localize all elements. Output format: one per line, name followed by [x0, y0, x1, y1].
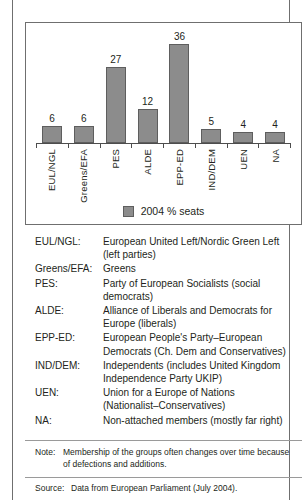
- bar-slot: 36: [164, 31, 196, 143]
- source-block: Source: Data from European Parliament (J…: [25, 483, 300, 495]
- bar-value-label: 5: [209, 116, 215, 127]
- category-label: UEN: [238, 149, 249, 170]
- glossary-term: EUL/NGL:: [35, 235, 103, 248]
- category-cell: EUL/NGL: [36, 149, 68, 209]
- bar: [106, 67, 126, 143]
- bar-slot: 4: [259, 31, 291, 143]
- glossary-definition: Union for a Europe of Nations (Nationali…: [103, 386, 292, 412]
- bar-slot: 4: [227, 31, 259, 143]
- glossary-row: ALDE: Alliance of Liberals and Democrats…: [35, 304, 292, 330]
- category-cell: PES: [100, 149, 132, 209]
- axis-tick: [100, 144, 101, 148]
- x-axis-ticks: [36, 144, 291, 148]
- category-label: Greens/EFA: [78, 149, 89, 203]
- bar-value-label: 6: [81, 113, 87, 124]
- x-axis-category-labels: EUL/NGL Greens/EFA PES ALDE EPP-ED IND/D…: [36, 149, 291, 209]
- glossary-term: EPP-ED:: [35, 331, 103, 344]
- axis-tick: [258, 144, 259, 148]
- bar-slot: 27: [100, 31, 132, 143]
- glossary-term: UEN:: [35, 386, 103, 399]
- glossary-row: NA: Non-attached members (mostly far rig…: [35, 414, 292, 427]
- bar: [138, 109, 158, 143]
- chart-legend: 2004 % seats: [26, 205, 300, 217]
- category-cell: UEN: [227, 149, 259, 209]
- note-block: Note: Membership of the groups often cha…: [25, 447, 300, 470]
- legend-label: 2004 % seats: [141, 205, 205, 217]
- glossary-row: UEN: Union for a Europe of Nations (Nati…: [35, 386, 292, 412]
- glossary-term: NA:: [35, 414, 103, 427]
- source-divider: [25, 477, 300, 478]
- bar-slot: 5: [195, 31, 227, 143]
- bar-slot: 12: [132, 31, 164, 143]
- bar: [233, 132, 253, 143]
- glossary-row: Greens/EFA: Greens: [35, 262, 292, 275]
- source-label: Source:: [35, 483, 71, 495]
- bar-value-label: 4: [272, 119, 278, 130]
- category-cell: NA: [259, 149, 291, 209]
- glossary-row: EUL/NGL: European United Left/Nordic Gre…: [35, 235, 292, 261]
- glossary-term: ALDE:: [35, 304, 103, 317]
- axis-tick: [36, 144, 37, 148]
- bar: [169, 44, 189, 143]
- bar-slot: 6: [68, 31, 100, 143]
- bar-chart: 6 6 27 12 36: [25, 22, 300, 225]
- category-cell: ALDE: [132, 149, 164, 209]
- glossary-definition: Independents (includes United Kingdom In…: [103, 359, 292, 385]
- bar: [201, 129, 221, 143]
- glossary-term: PES:: [35, 277, 103, 290]
- axis-tick: [227, 144, 228, 148]
- note-divider: [25, 440, 300, 441]
- bar: [265, 132, 285, 143]
- axis-tick: [68, 144, 69, 148]
- abbreviation-glossary: EUL/NGL: European United Left/Nordic Gre…: [25, 235, 300, 428]
- axis-tick: [163, 144, 164, 148]
- category-label: IND/DEM: [206, 149, 217, 191]
- bar-value-label: 6: [49, 113, 55, 124]
- category-cell: Greens/EFA: [68, 149, 100, 209]
- category-label: EPP-ED: [174, 149, 185, 186]
- note-label: Note:: [35, 447, 63, 459]
- glossary-term: IND/DEM:: [35, 359, 103, 372]
- axis-tick: [131, 144, 132, 148]
- legend-swatch-icon: [123, 206, 134, 217]
- bar: [42, 126, 62, 143]
- glossary-term: Greens/EFA:: [35, 262, 103, 275]
- category-label: NA: [270, 149, 281, 163]
- axis-tick: [195, 144, 196, 148]
- axis-tick: [290, 144, 291, 148]
- bar-series-2004-seats: 6 6 27 12 36: [36, 31, 291, 143]
- glossary-definition: Party of European Socialists (social dem…: [103, 277, 292, 303]
- category-label: EUL/NGL: [46, 149, 57, 191]
- bar-value-label: 4: [240, 119, 246, 130]
- glossary-row: IND/DEM: Independents (includes United K…: [35, 359, 292, 385]
- bar-value-label: 27: [110, 54, 121, 65]
- glossary-definition: Greens: [103, 262, 292, 275]
- bar: [74, 126, 94, 143]
- source-text: Data from European Parliament (July 2004…: [71, 483, 292, 495]
- glossary-definition: Non-attached members (mostly far right): [103, 414, 292, 427]
- glossary-row: EPP-ED: European People's Party–European…: [35, 331, 292, 357]
- category-cell: IND/DEM: [195, 149, 227, 209]
- note-text: Membership of the groups often changes o…: [63, 447, 292, 470]
- glossary-definition: European United Left/Nordic Green Left (…: [103, 235, 292, 261]
- bar-slot: 6: [36, 31, 68, 143]
- glossary-definition: Alliance of Liberals and Democrats for E…: [103, 304, 292, 330]
- bar-value-label: 36: [174, 31, 185, 42]
- plot-area: 6 6 27 12 36: [36, 31, 291, 143]
- figure-frame: 6 6 27 12 36: [12, 0, 290, 500]
- category-cell: EPP-ED: [164, 149, 196, 209]
- glossary-definition: European People's Party–European Democra…: [103, 331, 292, 357]
- glossary-row: PES: Party of European Socialists (socia…: [35, 277, 292, 303]
- bar-value-label: 12: [142, 96, 153, 107]
- category-label: PES: [110, 149, 121, 169]
- category-label: ALDE: [142, 149, 153, 175]
